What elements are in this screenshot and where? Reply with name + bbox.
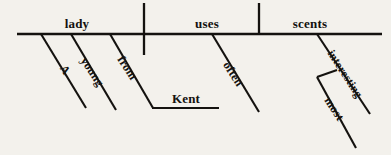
- word-subject: lady: [65, 16, 90, 31]
- word-object: scents: [293, 16, 327, 31]
- word-adjective-interesting: interesting: [325, 48, 366, 101]
- word-object-of-preposition: Kent: [172, 91, 201, 106]
- word-adverb-most: most: [322, 94, 348, 123]
- word-adjective-young: young: [78, 54, 107, 89]
- sentence-diagram-page: lady uses scents Kent A young from often…: [0, 0, 391, 155]
- word-verb: uses: [195, 16, 219, 31]
- most-to-interesting-connector: [317, 70, 337, 77]
- reed-kellogg-diagram: lady uses scents Kent A young from often…: [0, 0, 391, 155]
